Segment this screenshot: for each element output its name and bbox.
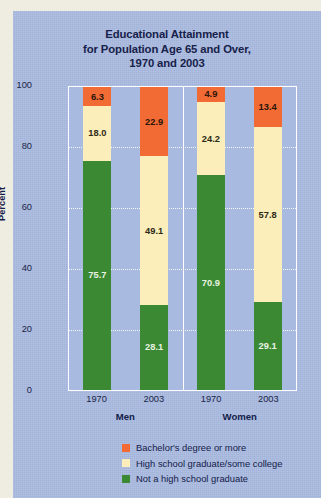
chart-title-line-2: for Population Age 65 and Over, xyxy=(13,42,321,57)
stacked-bar[interactable]: 4.924.270.9 xyxy=(197,87,225,390)
plot-area: 6.318.075.722.949.128.14.924.270.913.457… xyxy=(68,86,297,391)
bar-series-container: 6.318.075.722.949.128.14.924.270.913.457… xyxy=(69,87,296,390)
y-axis-tick-label: 100 xyxy=(0,80,32,90)
chart-title-line-3: 1970 and 2003 xyxy=(13,56,321,71)
y-axis-tick-label: 40 xyxy=(0,263,32,273)
x-axis-tick-label: 1970 xyxy=(183,394,239,404)
legend-label: High school graduate/some college xyxy=(136,458,282,469)
bar-segment[interactable]: 6.3 xyxy=(83,87,111,106)
bar-segment-value: 29.1 xyxy=(259,341,277,351)
bar-segment-value: 6.3 xyxy=(91,92,104,102)
x-axis-group-label: Women xyxy=(183,411,298,422)
legend-swatch-icon xyxy=(122,459,130,467)
bar-segment[interactable]: 70.9 xyxy=(197,175,225,390)
bar-segment[interactable]: 49.1 xyxy=(140,156,168,305)
x-tick-group: 19702003 xyxy=(183,394,298,404)
legend-swatch-icon xyxy=(122,475,130,483)
legend-swatch-icon xyxy=(122,444,130,452)
y-axis-tick-label: 0 xyxy=(0,385,32,395)
bar-segment[interactable]: 57.8 xyxy=(254,127,282,302)
bar-segment[interactable]: 24.2 xyxy=(197,102,225,175)
chart-title-line-1: Educational Attainment xyxy=(13,27,321,42)
bar-segment-value: 24.2 xyxy=(202,134,220,144)
stacked-bar[interactable]: 22.949.128.1 xyxy=(140,87,168,390)
bar-segment[interactable]: 13.4 xyxy=(254,87,282,127)
bar-group-men: 6.318.075.722.949.128.1 xyxy=(69,87,183,390)
legend-item[interactable]: Not a high school graduate xyxy=(122,471,282,487)
bar-group-women: 4.924.270.913.457.829.1 xyxy=(183,87,297,390)
x-axis-tick-label: 1970 xyxy=(69,394,125,404)
y-axis-tick-label: 60 xyxy=(0,202,32,212)
bar-segment-value: 75.7 xyxy=(88,270,106,280)
bar-segment[interactable]: 29.1 xyxy=(254,302,282,390)
chart-legend: Bachelor's degree or moreHigh school gra… xyxy=(122,440,282,487)
y-axis-tick-label: 80 xyxy=(0,141,32,151)
x-axis-group-label: Men xyxy=(68,411,183,422)
bar-segment[interactable]: 18.0 xyxy=(83,106,111,161)
bar-segment[interactable]: 28.1 xyxy=(140,305,168,390)
bar-segment-value: 70.9 xyxy=(202,278,220,288)
x-axis-tick-label: 2003 xyxy=(126,394,182,404)
chart-panel: Educational Attainment for Population Ag… xyxy=(13,11,321,498)
legend-item[interactable]: Bachelor's degree or more xyxy=(122,440,282,456)
x-axis-group-labels: MenWomen xyxy=(68,411,297,422)
stacked-bar[interactable]: 6.318.075.7 xyxy=(83,87,111,390)
bar-segment[interactable]: 22.9 xyxy=(140,87,168,156)
bar-segment[interactable]: 75.7 xyxy=(83,161,111,390)
legend-label: Bachelor's degree or more xyxy=(136,442,246,453)
bar-segment-value: 13.4 xyxy=(259,102,277,112)
bar-segment-value: 28.1 xyxy=(145,342,163,352)
chart-title: Educational Attainment for Population Ag… xyxy=(13,27,321,71)
bar-segment[interactable]: 4.9 xyxy=(197,87,225,102)
bar-segment-value: 22.9 xyxy=(145,117,163,127)
chart-page: Educational Attainment for Population Ag… xyxy=(0,0,321,498)
legend-label: Not a high school graduate xyxy=(136,473,248,484)
x-axis-ticks: 1970200319702003 xyxy=(68,394,297,404)
x-tick-group: 19702003 xyxy=(68,394,183,404)
x-axis-tick-label: 2003 xyxy=(240,394,296,404)
y-axis-tick-label: 20 xyxy=(0,324,32,334)
stacked-bar[interactable]: 13.457.829.1 xyxy=(254,87,282,390)
bar-segment-value: 4.9 xyxy=(204,89,217,99)
bar-segment-value: 49.1 xyxy=(145,226,163,236)
legend-item[interactable]: High school graduate/some college xyxy=(122,456,282,472)
bar-segment-value: 57.8 xyxy=(259,210,277,220)
bar-segment-value: 18.0 xyxy=(88,128,106,138)
